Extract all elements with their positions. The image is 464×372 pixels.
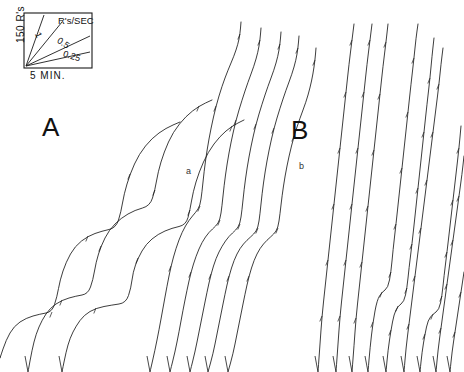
legend-x-axis-label: 5 MIN. xyxy=(30,70,65,81)
legend-y-axis-label: 150 R's xyxy=(15,0,26,51)
panel-label-a: A xyxy=(42,112,59,143)
annotation-b: b xyxy=(299,161,304,171)
panel-label-b: B xyxy=(291,115,308,146)
legend-unit-label: R's/SEC xyxy=(58,15,94,26)
annotation-a: a xyxy=(186,166,191,176)
